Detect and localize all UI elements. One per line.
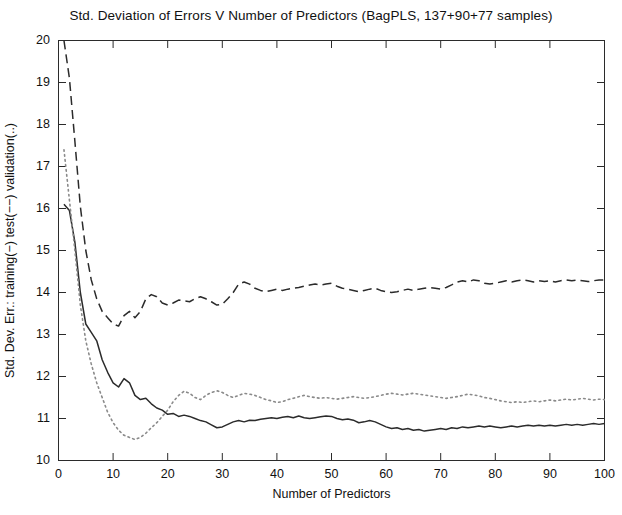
y-tick-label: 19 bbox=[16, 75, 50, 89]
x-tick-label: 100 bbox=[585, 467, 622, 481]
x-tick-label: 30 bbox=[202, 467, 242, 481]
y-tick-label: 11 bbox=[16, 411, 50, 425]
x-tick-label: 50 bbox=[312, 467, 352, 481]
x-tick-label: 60 bbox=[366, 467, 406, 481]
y-tick-label: 15 bbox=[16, 243, 50, 257]
plot-area bbox=[58, 40, 605, 461]
x-axis-label: Number of Predictors bbox=[58, 487, 605, 501]
x-tick-label: 20 bbox=[148, 467, 188, 481]
chart-title: Std. Deviation of Errors V Number of Pre… bbox=[0, 8, 622, 23]
x-tick-label: 10 bbox=[93, 467, 133, 481]
y-tick-label: 20 bbox=[16, 33, 50, 47]
y-tick-label: 13 bbox=[16, 327, 50, 341]
y-tick-label: 16 bbox=[16, 201, 50, 215]
x-tick-label: 80 bbox=[475, 467, 515, 481]
x-tick-label: 40 bbox=[257, 467, 297, 481]
chart-container: Std. Deviation of Errors V Number of Pre… bbox=[0, 0, 622, 515]
y-tick-label: 10 bbox=[16, 453, 50, 467]
x-tick-label: 90 bbox=[530, 467, 570, 481]
y-tick-label: 14 bbox=[16, 285, 50, 299]
plot-border bbox=[59, 41, 605, 461]
y-tick-label: 17 bbox=[16, 159, 50, 173]
y-tick-label: 18 bbox=[16, 117, 50, 131]
y-tick-label: 12 bbox=[16, 369, 50, 383]
plot-svg bbox=[58, 40, 605, 461]
x-tick-label: 70 bbox=[421, 467, 461, 481]
x-tick-label: 0 bbox=[39, 467, 79, 481]
